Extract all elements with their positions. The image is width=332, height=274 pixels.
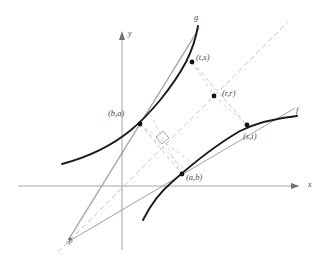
guide-midbox-lower	[150, 114, 182, 174]
y-axis-label: y	[128, 29, 132, 38]
guide-ts-to-rr	[192, 62, 214, 96]
point-label-ab: (a,b)	[186, 172, 202, 182]
tangent-line-steep	[68, 28, 199, 240]
inverse-function-diagram: g f (t,s) (b,a) (r,r) (s,t) (a,b) P x y	[0, 0, 332, 274]
diagram-canvas	[0, 0, 332, 274]
curve-g	[62, 26, 198, 164]
point-label-ba: (b,a)	[108, 108, 124, 118]
point-label-st: (s,t)	[243, 131, 256, 141]
x-axis-label: x	[308, 180, 312, 189]
curve-label-g: g	[194, 12, 198, 22]
curve-f	[143, 116, 297, 220]
guide-midbox-upper	[140, 124, 196, 166]
x-axis-arrow	[291, 183, 299, 189]
guide-rr-to-st	[214, 96, 247, 125]
secant-line-through-ba-ts	[70, 34, 196, 238]
curve-label-f: f	[296, 105, 298, 115]
point-ba	[138, 122, 143, 127]
y-axis-arrow	[119, 31, 125, 40]
point-ab	[180, 172, 185, 177]
point-rr	[212, 94, 217, 99]
point-label-P: P	[68, 238, 73, 247]
point-st	[245, 123, 250, 128]
point-ts	[190, 60, 195, 65]
point-label-ts: (t,s)	[196, 52, 209, 62]
point-label-rr: (r,r)	[222, 88, 235, 98]
